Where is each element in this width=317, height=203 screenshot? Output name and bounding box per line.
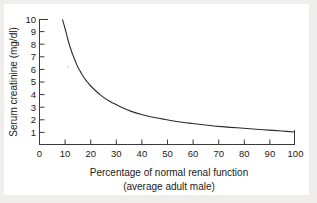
chart-plot: 1 2 3 4 5 6 7 8 9 10 bbox=[4, 4, 309, 195]
y-tick-label: 1 bbox=[31, 127, 36, 138]
x-tick-label: 30 bbox=[111, 148, 122, 159]
figure-canvas: 1 2 3 4 5 6 7 8 9 10 bbox=[4, 4, 309, 195]
scan-speck bbox=[67, 66, 69, 68]
y-tick-label: 9 bbox=[31, 26, 36, 37]
x-tick-label: 80 bbox=[239, 148, 250, 159]
y-tick-label: 6 bbox=[31, 64, 36, 75]
y-tick-label: 4 bbox=[31, 89, 36, 100]
x-axis-title-line2: (average adult male) bbox=[123, 181, 215, 192]
y-tick-marks bbox=[40, 20, 45, 133]
y-tick-label: 2 bbox=[31, 114, 36, 125]
x-tick-label: 0 bbox=[37, 148, 42, 159]
x-tick-label: 10 bbox=[60, 148, 71, 159]
x-tick-label: 60 bbox=[188, 148, 199, 159]
x-tick-label: 90 bbox=[265, 148, 276, 159]
x-tick-label: 100 bbox=[288, 148, 304, 159]
y-tick-label: 3 bbox=[31, 102, 36, 113]
y-tick-label: 8 bbox=[31, 39, 36, 50]
y-axis-title: Serum creatinine (mg/dl) bbox=[8, 27, 19, 136]
axis-frame bbox=[40, 19, 296, 145]
serum-creatinine-curve bbox=[62, 20, 294, 133]
x-axis-title-line1: Percentage of normal renal function bbox=[90, 167, 248, 178]
y-tick-label: 5 bbox=[31, 76, 36, 87]
y-tick-label: 7 bbox=[31, 51, 36, 62]
y-tick-labels: 1 2 3 4 5 6 7 8 9 10 bbox=[25, 14, 36, 138]
x-tick-label: 40 bbox=[137, 148, 148, 159]
y-tick-label: 10 bbox=[25, 14, 36, 25]
x-tick-label: 20 bbox=[85, 148, 96, 159]
x-tick-label: 50 bbox=[162, 148, 173, 159]
figure-container: 1 2 3 4 5 6 7 8 9 10 bbox=[0, 0, 317, 203]
x-tick-label: 70 bbox=[213, 148, 224, 159]
x-tick-marks bbox=[40, 140, 295, 145]
x-tick-labels: 0 10 20 30 40 50 60 70 80 90 100 bbox=[37, 148, 304, 159]
